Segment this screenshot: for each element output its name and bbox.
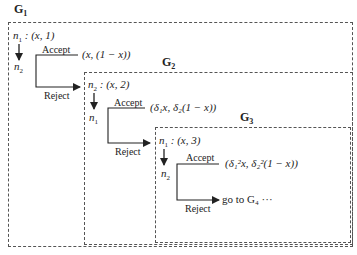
stage3-reject-target: go to G₄ ··· [222, 193, 273, 205]
stage1-accept-label: Accept [42, 44, 70, 55]
stage2-responder: n1 [89, 111, 98, 126]
stage3-reject-label: Reject [185, 203, 211, 214]
stage2-reject-label: Reject [115, 146, 141, 157]
stage1-reject-label: Reject [44, 90, 70, 101]
stage1-offer: n1 : (x, 1) [13, 29, 54, 44]
stage3-offer: n1 : (x, 3) [159, 134, 200, 149]
stage2-accept-label: Accept [114, 97, 142, 108]
stage3-responder: n2 [161, 167, 170, 182]
stage2-offer: n2 : (x, 2) [88, 78, 129, 93]
stage1-responder: n2 [14, 60, 23, 75]
stage3-accept-payoff: (δ₁²x, δ₂²(1 − x)) [225, 157, 298, 169]
bargaining-game-diagram: G1 G2 G3 n1 : (x, 1) n2 Accept (x, (1 − … [0, 0, 357, 255]
stage2-accept-payoff: (δ₁x, δ₂(1 − x)) [150, 101, 216, 113]
stage3-accept-label: Accept [186, 152, 214, 163]
stage1-accept-payoff: (x, (1 − x)) [82, 48, 130, 60]
